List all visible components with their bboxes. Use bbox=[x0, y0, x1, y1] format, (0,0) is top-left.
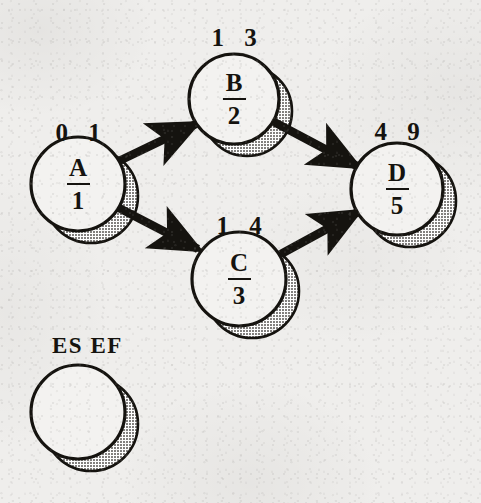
node-c-activity-letter: C bbox=[227, 250, 251, 277]
node-a-es-ef-label: 0 1 bbox=[18, 120, 138, 145]
node-b-identifier: B2 bbox=[194, 69, 274, 129]
legend-es-ef-caption: ES EF bbox=[52, 334, 123, 357]
node-c-es-ef-label: 1 4 bbox=[179, 213, 299, 238]
node-c-fraction-rule bbox=[228, 278, 251, 280]
node-d-fraction-rule bbox=[386, 188, 409, 190]
node-a-identifier: A1 bbox=[38, 154, 118, 214]
node-d-duration: 5 bbox=[388, 192, 407, 219]
legend-node-circle[interactable] bbox=[31, 365, 125, 459]
node-d-activity-letter: D bbox=[385, 160, 409, 187]
node-b-es-ef-label: 1 3 bbox=[174, 25, 294, 50]
node-a-duration: 1 bbox=[69, 187, 88, 214]
node-b-duration: 2 bbox=[225, 102, 244, 129]
node-a-fraction-rule bbox=[67, 183, 90, 185]
node-d-identifier: D5 bbox=[357, 159, 437, 219]
node-a-activity-letter: A bbox=[66, 155, 90, 182]
node-b-activity-letter: B bbox=[223, 70, 246, 97]
node-d-es-ef-label: 4 9 bbox=[337, 119, 457, 144]
node-b-fraction-rule bbox=[223, 98, 246, 100]
node-c-duration: 3 bbox=[230, 282, 249, 309]
node-c-identifier: C3 bbox=[199, 249, 279, 309]
diagram-canvas: 0 1A11 3B21 4C34 9D5ES EF bbox=[0, 0, 481, 503]
